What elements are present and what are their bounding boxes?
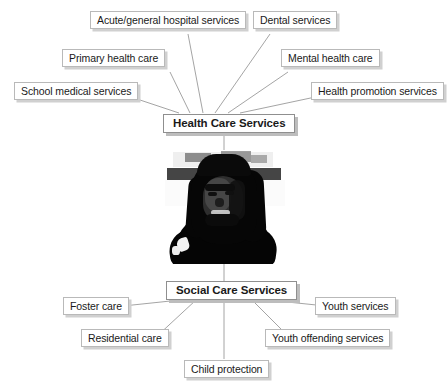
node-primary-health-care-label: Primary health care	[69, 53, 158, 64]
node-residential-care-label: Residential care	[88, 333, 162, 344]
connector-primary-health-care	[170, 72, 190, 113]
node-acute-general-hospital-services-label: Acute/general hospital services	[97, 15, 239, 26]
hub-health-care-services[interactable]: Health Care Services	[163, 114, 295, 133]
node-foster-care-label: Foster care	[70, 301, 122, 312]
node-youth-services-label: Youth services	[322, 301, 389, 312]
node-health-promotion-services-label: Health promotion services	[318, 86, 437, 97]
node-child-protection-label: Child protection	[191, 364, 262, 375]
hub-social-care-services[interactable]: Social Care Services	[166, 281, 297, 300]
diagram-canvas: Health Care Services Social Care Service…	[0, 0, 447, 392]
node-youth-offending-services-label: Youth offending services	[272, 333, 383, 344]
hub-health-care-services-label: Health Care Services	[173, 118, 285, 130]
connector-mental-health-care	[228, 72, 288, 113]
node-mental-health-care-label: Mental health care	[288, 53, 373, 64]
node-foster-care[interactable]: Foster care	[63, 297, 129, 315]
connector-dental-services	[215, 34, 270, 113]
node-acute-general-hospital-services[interactable]: Acute/general hospital services	[90, 11, 246, 29]
node-primary-health-care[interactable]: Primary health care	[62, 49, 165, 67]
node-school-medical-services[interactable]: School medical services	[14, 82, 138, 100]
node-dental-services-label: Dental services	[260, 15, 330, 26]
hub-social-care-services-label: Social Care Services	[176, 285, 287, 297]
node-dental-services[interactable]: Dental services	[253, 11, 337, 29]
node-youth-offending-services[interactable]: Youth offending services	[265, 329, 390, 347]
connector-health-promotion-services	[240, 96, 320, 113]
connector-acute-hospital-services	[188, 34, 203, 113]
node-child-protection[interactable]: Child protection	[184, 360, 269, 378]
node-mental-health-care[interactable]: Mental health care	[281, 49, 380, 67]
node-school-medical-services-label: School medical services	[21, 86, 131, 97]
node-youth-services[interactable]: Youth services	[315, 297, 396, 315]
connector-foster-care	[123, 300, 180, 306]
node-health-promotion-services[interactable]: Health promotion services	[311, 82, 444, 100]
node-residential-care[interactable]: Residential care	[81, 329, 169, 347]
central-portrait-photo	[163, 150, 285, 264]
